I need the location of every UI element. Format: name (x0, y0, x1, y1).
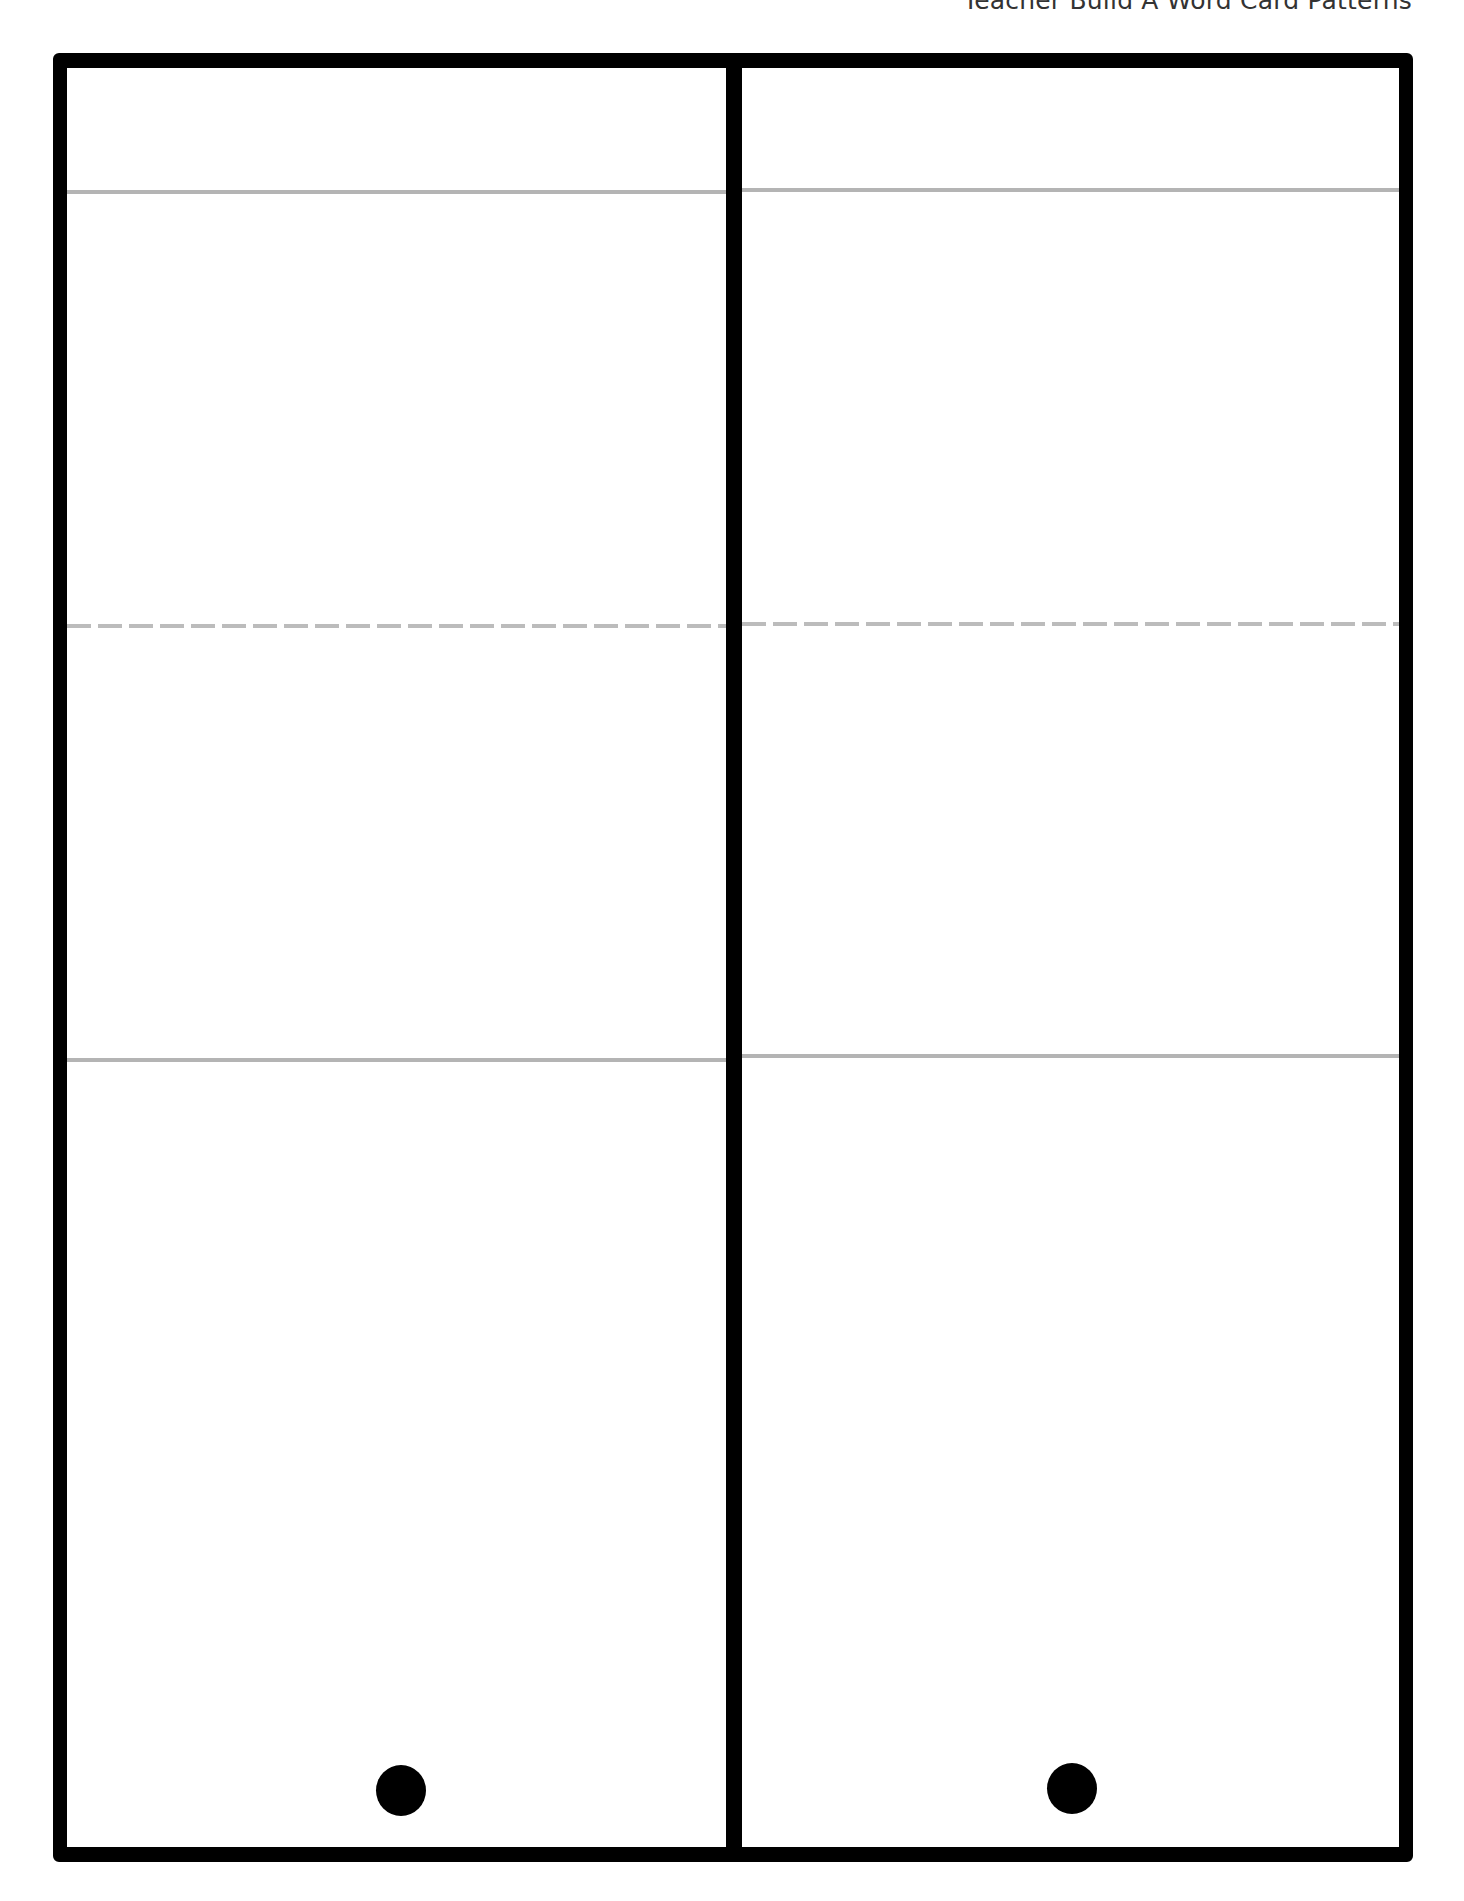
hole-punch-dot-icon (376, 1765, 426, 1816)
center-cut-line (726, 60, 742, 1855)
baseline-guide-line (742, 1054, 1399, 1058)
top-guide-line (742, 188, 1399, 192)
baseline-guide-line (67, 1058, 726, 1062)
midline-dashed-guide (67, 624, 726, 628)
top-guide-line (67, 190, 726, 194)
page-header-title: Teacher Build A Word Card Patterns (963, 0, 1412, 15)
midline-dashed-guide (742, 622, 1399, 626)
hole-punch-dot-icon (1047, 1763, 1097, 1814)
